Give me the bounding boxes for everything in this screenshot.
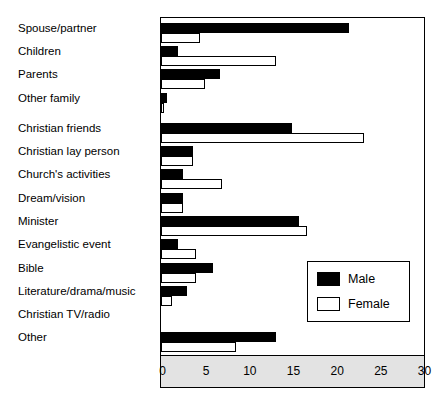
legend-item-female: Female xyxy=(317,295,390,313)
bar-male-6 xyxy=(161,169,183,179)
category-label-11: Literature/drama/music xyxy=(0,285,149,298)
x-tick-label-2: 10 xyxy=(243,365,256,378)
bar-female-5 xyxy=(161,156,193,166)
category-label-1: Children xyxy=(0,45,149,58)
bar-male-3 xyxy=(161,93,167,103)
bar-female-7 xyxy=(161,203,183,213)
female-swatch-icon xyxy=(317,297,340,311)
x-tick-label-1: 5 xyxy=(203,365,210,378)
bar-female-2 xyxy=(161,79,205,89)
bar-female-3 xyxy=(161,103,164,113)
bar-male-0 xyxy=(161,23,349,33)
category-label-0: Spouse/partner xyxy=(0,22,149,35)
x-tick-label-4: 20 xyxy=(330,365,343,378)
x-tick-label-5: 25 xyxy=(374,365,387,378)
x-tick-label-6: 30 xyxy=(418,365,431,378)
bar-male-10 xyxy=(161,263,213,273)
bar-male-13 xyxy=(161,332,276,342)
bar-male-9 xyxy=(161,239,178,249)
category-label-12: Christian TV/radio xyxy=(0,308,149,321)
bar-female-9 xyxy=(161,249,196,259)
bar-female-6 xyxy=(161,179,222,189)
legend-item-male: Male xyxy=(317,270,375,288)
bar-male-7 xyxy=(161,193,183,203)
x-tick-label-0: 0 xyxy=(159,365,166,378)
legend-label-male: Male xyxy=(348,272,375,286)
category-label-10: Bible xyxy=(0,262,149,275)
category-label-7: Dream/vision xyxy=(0,192,149,205)
chart-legend: Male Female xyxy=(307,261,410,322)
bar-female-0 xyxy=(161,33,200,43)
x-axis: 051015202530 xyxy=(160,356,425,388)
category-label-2: Parents xyxy=(0,68,149,81)
bar-male-8 xyxy=(161,216,299,226)
category-label-4: Christian friends xyxy=(0,122,149,135)
x-tick-label-3: 15 xyxy=(287,365,300,378)
bar-female-13 xyxy=(161,342,236,352)
category-label-8: Minister xyxy=(0,215,149,228)
bar-female-1 xyxy=(161,56,276,66)
legend-label-female: Female xyxy=(348,297,390,311)
bar-female-4 xyxy=(161,133,364,143)
bar-female-11 xyxy=(161,296,172,306)
bar-female-8 xyxy=(161,226,307,236)
male-swatch-icon xyxy=(317,272,340,286)
bar-male-11 xyxy=(161,286,187,296)
bar-female-10 xyxy=(161,273,196,283)
bar-male-4 xyxy=(161,123,292,133)
category-label-5: Christian lay person xyxy=(0,145,149,158)
category-label-6: Church's activities xyxy=(0,168,149,181)
bar-male-2 xyxy=(161,69,220,79)
bar-chart: Spouse/partnerChildrenParentsOther famil… xyxy=(0,0,441,411)
category-label-3: Other family xyxy=(0,92,149,105)
category-label-9: Evangelistic event xyxy=(0,238,149,251)
bar-male-1 xyxy=(161,46,178,56)
bar-male-5 xyxy=(161,146,193,156)
category-axis: Spouse/partnerChildrenParentsOther famil… xyxy=(0,18,155,356)
category-label-13: Other xyxy=(0,331,149,344)
